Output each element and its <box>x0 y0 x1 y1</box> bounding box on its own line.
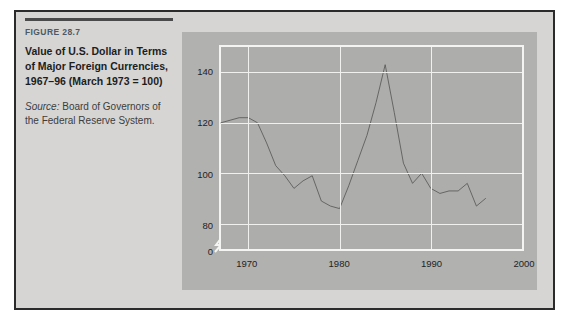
vertical-gridline <box>431 47 432 249</box>
data-line-series <box>221 47 522 249</box>
x-axis-tick-label: 1970 <box>236 258 257 269</box>
source-note: Source: Board of Governors of the Federa… <box>25 100 173 128</box>
x-axis-tick-label: 1990 <box>421 258 442 269</box>
y-axis-tick-label: 140 <box>197 65 213 76</box>
y-axis-tick-labels: 140120100800 <box>182 45 213 251</box>
y-axis-tick-label: 120 <box>197 117 213 128</box>
x-axis-tick-label: 2000 <box>513 258 534 269</box>
vertical-gridline <box>248 47 249 249</box>
figure-number-label: FIGURE 28.7 <box>25 27 173 37</box>
horizontal-gridline <box>221 224 522 225</box>
plot-area <box>219 45 524 251</box>
y-axis-tick-label: 100 <box>197 168 213 179</box>
horizontal-gridline <box>221 173 522 174</box>
vertical-gridline <box>340 47 341 249</box>
source-note-keyword: Source: <box>25 101 59 112</box>
horizontal-gridline <box>221 72 522 73</box>
header-rule <box>25 18 173 21</box>
horizontal-gridline <box>221 123 522 124</box>
x-axis-tick-labels: 1970198019902000 <box>219 254 524 268</box>
y-axis-tick-label: 80 <box>202 220 213 231</box>
figure-title: Value of U.S. Dollar in Terms of Major F… <box>25 44 173 89</box>
x-axis-tick-label: 1980 <box>329 258 350 269</box>
chart-panel: 140120100800 1970198019902000 <box>182 32 537 290</box>
figure-caption-column: FIGURE 28.7 Value of U.S. Dollar in Term… <box>25 18 173 128</box>
figure-panel: FIGURE 28.7 Value of U.S. Dollar in Term… <box>14 10 555 310</box>
